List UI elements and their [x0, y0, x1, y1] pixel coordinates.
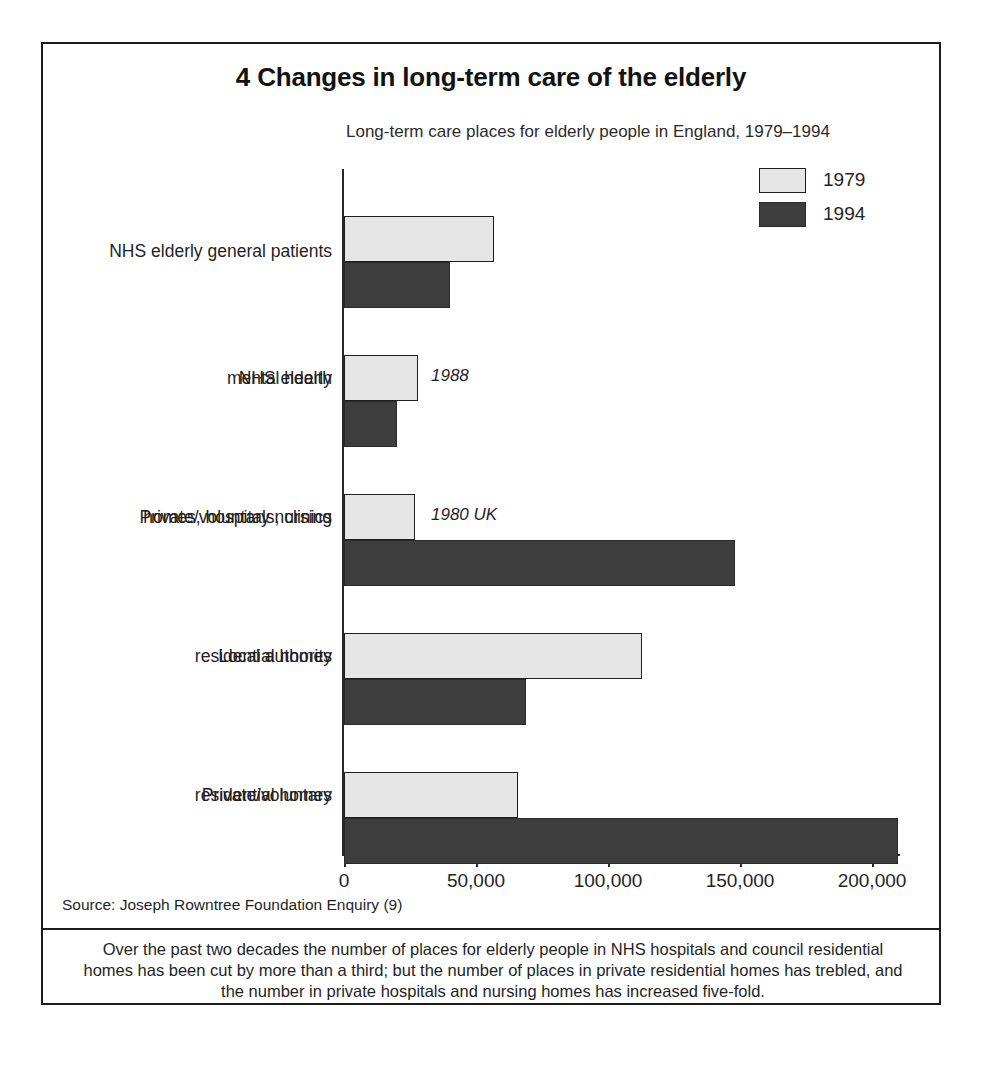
footer-divider — [43, 928, 939, 930]
x-tick-label-4: 200,000 — [838, 870, 907, 892]
category-label-3-line2: residential homes — [46, 645, 332, 668]
category-label-2-line2: homes, hospitals, clinics — [46, 506, 332, 529]
x-tick-label-1: 50,000 — [447, 870, 505, 892]
bar-1994-local-authority-residential-homes — [344, 679, 526, 725]
bar-1994-private-voluntary-residential-homes — [344, 818, 898, 864]
x-tick-label-3: 150,000 — [706, 870, 775, 892]
annotation-1988: 1988 — [431, 366, 469, 386]
annotation-1980-uk: 1980 UK — [431, 505, 497, 525]
bar-1979-private-voluntary-residential-homes — [344, 772, 518, 818]
category-label-0-line1: NHS elderly general patients — [46, 240, 332, 263]
bar-1979-nhs-elderly-general-patients — [344, 216, 494, 262]
bar-1979-private-voluntary-nursing-homes — [344, 494, 415, 540]
x-tick-label-0: 0 — [339, 870, 350, 892]
bar-1994-private-voluntary-nursing-homes — [344, 540, 735, 586]
category-label-1-line2: mental health — [46, 367, 332, 390]
bar-1994-nhs-elderly-mental-health — [344, 401, 397, 447]
bar-1979-nhs-elderly-mental-health — [344, 355, 418, 401]
bar-1994-nhs-elderly-general-patients — [344, 262, 450, 308]
category-label-4-line2: residential homes — [46, 784, 332, 807]
figure-frame: 4 Changes in long-term care of the elder… — [41, 42, 941, 1005]
figure-caption: Over the past two decades the number of … — [83, 939, 903, 1002]
plot-area: 0 50,000 100,000 150,000 200,000 NHS eld… — [43, 44, 943, 1007]
source-note: Source: Joseph Rowntree Foundation Enqui… — [62, 896, 402, 914]
x-tick-label-2: 100,000 — [574, 870, 643, 892]
bar-1979-local-authority-residential-homes — [344, 633, 642, 679]
figure-page: 4 Changes in long-term care of the elder… — [0, 0, 983, 1078]
